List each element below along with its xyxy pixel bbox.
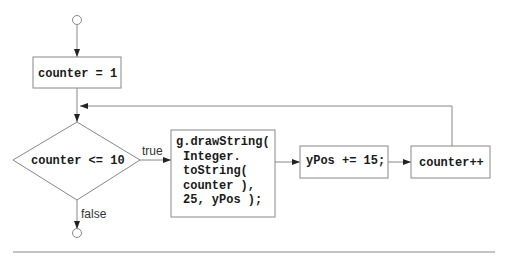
draw-string-line-1: g.drawString(: [176, 135, 270, 149]
flowchart: counter = 1 counter <= 10 true false g.d…: [0, 0, 507, 261]
start-node: [73, 16, 82, 25]
ypos-label: yPos += 15;: [306, 154, 385, 168]
end-node: [73, 229, 82, 238]
init-box-label: counter = 1: [38, 67, 117, 81]
draw-string-line-2: Integer.: [183, 150, 241, 164]
draw-string-line-3: toString(: [183, 164, 248, 178]
false-label: false: [81, 207, 107, 221]
true-label: true: [142, 144, 163, 158]
increment-label: counter++: [419, 156, 484, 170]
draw-string-line-5: 25, yPos );: [183, 193, 262, 207]
draw-string-line-4: counter ),: [183, 179, 255, 193]
decision-label: counter <= 10: [31, 154, 125, 168]
